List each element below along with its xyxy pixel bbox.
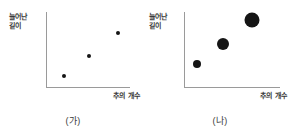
y-axis-label-line2: 길이 xyxy=(9,21,43,30)
panel-caption-ga: (가) xyxy=(0,114,146,127)
y-axis-label-line1: 늘어난 xyxy=(9,13,28,20)
data-point xyxy=(62,74,66,78)
panel-caption-na: (나) xyxy=(147,114,293,127)
y-axis-label-na: 늘어난 길이 xyxy=(149,12,183,30)
y-axis-label-line2: 길이 xyxy=(149,21,183,30)
figure-pair: 늘어난 길이 추의 개수 (가) 늘어난 길이 추의 개수 (나) xyxy=(0,0,293,138)
data-point xyxy=(245,13,260,28)
y-axis-label-line1: 늘어난 xyxy=(149,13,168,20)
plot-area-ga xyxy=(46,12,130,88)
x-axis-label-ga: 추의 개수 xyxy=(113,91,140,100)
data-point xyxy=(217,38,229,50)
data-point xyxy=(193,60,201,68)
data-point xyxy=(87,54,91,58)
data-point xyxy=(116,31,120,35)
panel-ga: 늘어난 길이 추의 개수 (가) xyxy=(0,0,146,138)
y-axis-label-ga: 늘어난 길이 xyxy=(9,12,43,30)
x-axis-label-na: 추의 개수 xyxy=(260,91,287,100)
panel-na: 늘어난 길이 추의 개수 (나) xyxy=(147,0,293,138)
plot-area-na xyxy=(184,12,280,88)
